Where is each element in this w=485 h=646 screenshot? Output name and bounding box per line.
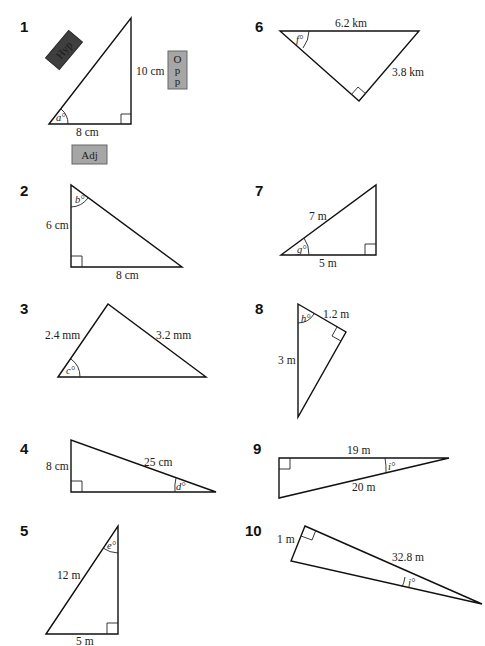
side-label-8cm: 8 cm <box>116 269 139 281</box>
triangle-5: e° 12 m 5 m <box>46 526 118 646</box>
side-label-5m: 5 m <box>319 257 337 269</box>
angle-label-a: a° <box>56 112 66 123</box>
angle-label-f: f° <box>296 34 304 45</box>
side-label-10cm: 10 cm <box>136 65 164 77</box>
side-label-3.2mm: 3.2 mm <box>156 329 191 341</box>
angle-label-h: h° <box>301 313 311 324</box>
side-label-20m: 20 m <box>352 481 375 493</box>
angle-label-c: c° <box>66 365 76 376</box>
svg-text:p: p <box>175 75 181 87</box>
triangle-1: a° 10 cm 8 cm Hyp O p p Adj <box>46 18 187 164</box>
triangle-4: d° 8 cm 25 cm <box>46 440 216 492</box>
triangle-3: c° 2.4 mm 3.2 mm <box>45 304 206 377</box>
adj-tag: Adj <box>72 145 107 164</box>
side-label-6cm: 6 cm <box>46 219 69 231</box>
angle-label-b: b° <box>75 194 85 205</box>
side-label-12m: 12 m <box>57 569 80 581</box>
side-label-3.8km: 3.8 km <box>392 66 424 78</box>
angle-label-d: d° <box>176 481 186 492</box>
side-label-8cm: 8 cm <box>46 460 69 472</box>
side-label-19m: 19 m <box>347 444 370 456</box>
side-label-5m: 5 m <box>76 635 94 646</box>
side-label-7m: 7 m <box>309 210 327 222</box>
triangle-6: f° 6.2 km 3.8 km <box>280 17 424 101</box>
side-label-32.8m: 32.8 m <box>392 551 424 563</box>
hyp-tag: Hyp <box>46 30 83 69</box>
triangle-2: b° 6 cm 8 cm <box>46 185 182 281</box>
triangle-10: j° 1 m 32.8 m <box>277 526 482 604</box>
side-label-3m: 3 m <box>278 354 296 366</box>
angle-label-e: e° <box>107 540 117 551</box>
triangle-8: h° 1.2 m 3 m <box>278 304 349 417</box>
side-label-8cm: 8 cm <box>76 126 99 138</box>
side-label-1.2m: 1.2 m <box>323 308 349 320</box>
worksheet-diagrams: a° 10 cm 8 cm Hyp O p p Adj b° 6 cm 8 cm <box>0 0 485 646</box>
side-label-1m: 1 m <box>277 533 295 545</box>
angle-label-i: i° <box>388 461 396 472</box>
side-label-25cm: 25 cm <box>144 456 172 468</box>
side-label-2.4mm: 2.4 mm <box>45 329 80 341</box>
side-label-6.2km: 6.2 km <box>335 17 367 29</box>
opp-tag: O p p <box>168 51 187 89</box>
angle-label-j: j° <box>406 577 416 588</box>
triangle-7: g° 7 m 5 m <box>281 185 376 269</box>
triangle-9: i° 19 m 20 m <box>279 444 449 498</box>
svg-text:Adj: Adj <box>81 149 98 161</box>
angle-label-g: g° <box>297 244 307 255</box>
